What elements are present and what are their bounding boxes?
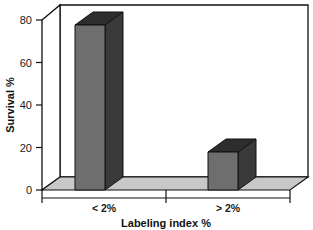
y-axis: 80 60 40 20 0 — [20, 14, 42, 196]
x-tick-label-gt2: > 2% — [216, 202, 241, 214]
y-axis-title: Survival % — [4, 77, 16, 133]
x-axis-title: Labeling index % — [121, 217, 211, 229]
y-tick-label: 0 — [26, 184, 32, 196]
left-wall — [42, 5, 60, 190]
x-tick-label-lt2: < 2% — [92, 202, 117, 214]
survival-bar-chart: 80 60 40 20 0 < 2% > 2% Survival % Labe — [0, 0, 313, 230]
bar-front-face — [75, 25, 105, 190]
x-axis: < 2% > 2% — [42, 190, 290, 214]
y-tick-label: 20 — [20, 142, 32, 154]
bar-side-face — [105, 12, 123, 190]
y-tick-label: 60 — [20, 57, 32, 69]
bar-front-face — [208, 152, 238, 190]
chart-container: 80 60 40 20 0 < 2% > 2% Survival % Labe — [0, 0, 313, 230]
y-tick-label: 80 — [20, 14, 32, 26]
bar-group-gt2[interactable] — [208, 139, 256, 190]
y-tick-label: 40 — [20, 99, 32, 111]
bar-group-lt2[interactable] — [75, 12, 123, 190]
